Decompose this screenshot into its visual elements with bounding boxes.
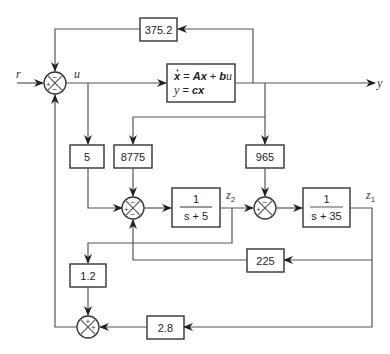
svg-text:+: +: [124, 205, 129, 214]
svg-text:−: −: [131, 198, 136, 207]
5-to-j2-line: [88, 168, 122, 208]
summing-junction-main: − + −: [44, 72, 66, 94]
gain-block-8775: 8775: [114, 145, 152, 168]
label-z2: z2: [225, 188, 236, 204]
svg-text:−: −: [53, 85, 58, 94]
y-to-8775-line: [133, 117, 265, 144]
label-y: y: [376, 76, 383, 90]
summing-junction-4: + +: [77, 316, 99, 338]
svg-text:+: +: [91, 323, 96, 332]
svg-text:s + 5: s + 5: [184, 210, 208, 222]
svg-text:y = cx: y = cx: [173, 83, 205, 97]
transfer-function-1-over-s-plus-35: 1 s + 35: [303, 188, 350, 227]
svg-text:+: +: [86, 317, 91, 326]
svg-text:5: 5: [84, 151, 90, 163]
label-r: r: [16, 67, 21, 81]
summing-junction-3: − +: [254, 197, 276, 219]
svg-text:8775: 8775: [121, 151, 145, 163]
gain-block-965: 965: [246, 145, 284, 168]
svg-text:965: 965: [256, 151, 274, 163]
gain-block-1-2: 1.2: [70, 264, 106, 287]
svg-text:1: 1: [323, 193, 329, 205]
top-feedback-to-junction: [55, 29, 140, 71]
svg-text:+: +: [256, 205, 261, 214]
summing-junction-2: − + −: [122, 197, 144, 219]
svg-text:−: −: [53, 73, 58, 82]
svg-text:−: −: [131, 210, 136, 219]
svg-text:225: 225: [256, 255, 274, 267]
label-z1: z1: [365, 188, 376, 204]
svg-text:2.8: 2.8: [158, 322, 173, 334]
gain-block-375-2: 375.2: [140, 18, 177, 41]
block-diagram: r − + − u x = Ax + bu y = cx y 375.2: [0, 0, 390, 354]
svg-text:−: −: [263, 198, 268, 207]
gain-block-225: 225: [247, 249, 284, 272]
gain-block-5: 5: [70, 145, 104, 168]
svg-text:s + 35: s + 35: [311, 210, 341, 222]
gain-block-2-8: 2.8: [147, 316, 184, 339]
transfer-function-1-over-s-plus-5: 1 s + 5: [172, 188, 220, 227]
svg-text:1: 1: [193, 193, 199, 205]
j4-to-main-junction-line: [55, 95, 77, 327]
plant-state-space-block: x = Ax + bu y = cx: [167, 64, 235, 102]
svg-text:375.2: 375.2: [145, 24, 173, 36]
svg-text:1.2: 1.2: [80, 270, 95, 282]
svg-text:+: +: [46, 80, 51, 89]
label-u: u: [74, 67, 80, 81]
svg-text:x = Ax + bu: x = Ax + bu: [173, 69, 232, 83]
